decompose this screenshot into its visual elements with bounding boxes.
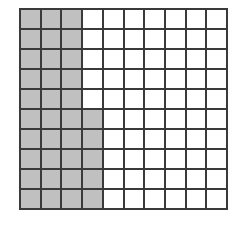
grid-cell [207, 30, 228, 50]
grid-cell [145, 70, 166, 90]
shaded-cell [62, 10, 83, 30]
shaded-cell [42, 30, 63, 50]
grid-cell [104, 90, 125, 110]
grid-cell [104, 170, 125, 190]
shaded-cell [62, 190, 83, 210]
grid-cell [145, 170, 166, 190]
shaded-cell [21, 130, 42, 150]
shaded-cell [21, 150, 42, 170]
grid-cell [145, 30, 166, 50]
grid-cell [187, 30, 208, 50]
grid-cell [83, 70, 104, 90]
grid-cell [207, 70, 228, 90]
grid-cell [166, 50, 187, 70]
grid-cell [125, 50, 146, 70]
shaded-cell [83, 130, 104, 150]
grid-cell [125, 130, 146, 150]
grid-cell [83, 90, 104, 110]
grid-cell [83, 30, 104, 50]
grid-cell [125, 190, 146, 210]
shaded-cell [62, 110, 83, 130]
grid-cell [166, 170, 187, 190]
shaded-cell [42, 90, 63, 110]
grid-cell [187, 130, 208, 150]
grid-cell [166, 190, 187, 210]
grid-cell [187, 70, 208, 90]
grid-cell [207, 170, 228, 190]
grid-cell [207, 130, 228, 150]
grid-cell [125, 30, 146, 50]
shaded-cell [83, 190, 104, 210]
grid-cell [166, 130, 187, 150]
grid-cell [104, 30, 125, 50]
grid-cell [145, 90, 166, 110]
grid-cell [125, 170, 146, 190]
grid-cell [166, 90, 187, 110]
grid-cell [207, 50, 228, 70]
grid-cell [207, 10, 228, 30]
grid-cell [207, 90, 228, 110]
grid-cell [187, 110, 208, 130]
grid-cell [145, 190, 166, 210]
grid-cell [187, 50, 208, 70]
grid-cell [207, 190, 228, 210]
shaded-cell [62, 70, 83, 90]
grid-cell [207, 150, 228, 170]
shaded-cell [21, 50, 42, 70]
shaded-cell [42, 110, 63, 130]
shaded-cell [21, 110, 42, 130]
shaded-cell [62, 130, 83, 150]
shaded-cell [83, 170, 104, 190]
shaded-cell [62, 50, 83, 70]
grid-cell [104, 190, 125, 210]
grid-cell [125, 150, 146, 170]
grid-cell [145, 10, 166, 30]
grid-cell [104, 110, 125, 130]
grid-cell [104, 10, 125, 30]
grid-cell [125, 110, 146, 130]
shaded-cell [62, 170, 83, 190]
grid-cell [125, 90, 146, 110]
grid-cell [187, 150, 208, 170]
grid-cell [166, 150, 187, 170]
shaded-cell [42, 10, 63, 30]
shaded-cell [42, 150, 63, 170]
shaded-cell [42, 130, 63, 150]
shaded-cell [42, 190, 63, 210]
grid-cell [104, 130, 125, 150]
grid-cell [145, 50, 166, 70]
shaded-cell [83, 150, 104, 170]
grid-cell [166, 30, 187, 50]
grid-cell [145, 130, 166, 150]
shaded-cell [21, 170, 42, 190]
shaded-cell [62, 150, 83, 170]
grid-cell [207, 110, 228, 130]
shaded-cell [21, 70, 42, 90]
hundred-grid [19, 8, 228, 210]
shaded-cell [21, 190, 42, 210]
grid-cell [145, 150, 166, 170]
grid-cell [187, 190, 208, 210]
grid-cell [145, 110, 166, 130]
grid-cell [104, 50, 125, 70]
shaded-cell [21, 90, 42, 110]
grid-cell [166, 70, 187, 90]
grid-cell [187, 10, 208, 30]
shaded-cell [62, 90, 83, 110]
grid-cell [166, 10, 187, 30]
grid-cell [125, 70, 146, 90]
grid-cell [104, 150, 125, 170]
shaded-cell [42, 170, 63, 190]
grid-cell [187, 170, 208, 190]
grid-cell [166, 110, 187, 130]
grid-cell [125, 10, 146, 30]
grid-cell [187, 90, 208, 110]
grid-cell [83, 50, 104, 70]
shaded-cell [42, 50, 63, 70]
shaded-cell [21, 30, 42, 50]
grid-cell [83, 10, 104, 30]
shaded-cell [42, 70, 63, 90]
shaded-cell [83, 110, 104, 130]
shaded-cell [62, 30, 83, 50]
shaded-cell [21, 10, 42, 30]
